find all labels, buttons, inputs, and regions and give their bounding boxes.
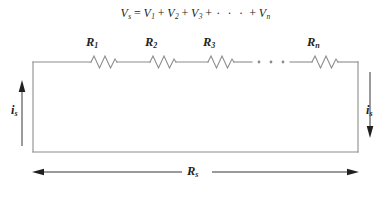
ellipsis-dots-icon (258, 61, 285, 64)
resistor-symbol-r3 (208, 56, 234, 68)
circuit-drawing (0, 0, 391, 201)
resistor-symbol-r2 (150, 56, 176, 68)
current-arrow-left-icon (19, 80, 26, 146)
figure-canvas: Vs=V1+V2+V3+· · ·+Vn R1 R2 R3 Rn is is R… (0, 0, 391, 201)
resistor-symbol-rn (312, 56, 338, 68)
total-resistance-dimension-arrow-icon (32, 169, 359, 176)
resistor-symbol-r1 (91, 56, 117, 68)
current-arrow-right-icon (367, 72, 374, 138)
